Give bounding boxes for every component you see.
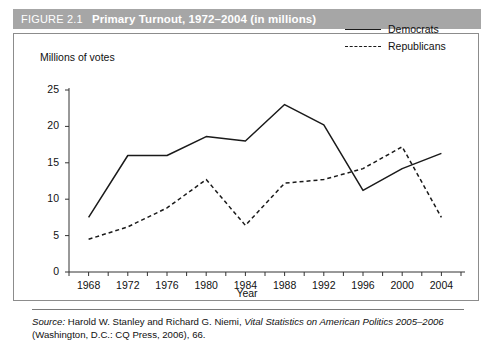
axis-spine [69, 88, 465, 272]
y-tick-label: 15 [35, 156, 59, 168]
chart-svg [0, 0, 494, 346]
x-tick-label: 1996 [343, 279, 383, 291]
y-tick-label: 5 [35, 229, 59, 241]
chart-plot-area: 0510152025 19681972197619801984198819921… [0, 0, 494, 346]
source-italic-title: Vital Statistics on American Politics 20… [244, 316, 443, 327]
x-tick-label: 1968 [69, 279, 109, 291]
source-label: Source: [32, 316, 65, 327]
x-tick-label: 1980 [186, 279, 226, 291]
x-tick-label: 1972 [108, 279, 148, 291]
source-text-part2: (Washington, D.C.: CQ Press, 2006), 66. [32, 329, 205, 340]
chart-series [89, 105, 442, 240]
source-note: Source: Harold W. Stanley and Richard G.… [32, 315, 468, 341]
x-tick-label: 1984 [225, 279, 265, 291]
x-tick-label: 1988 [265, 279, 305, 291]
chart-axes [65, 88, 465, 276]
y-tick-label: 20 [35, 119, 59, 131]
figure-page: FIGURE 2.1 Primary Turnout, 1972–2004 (i… [0, 0, 494, 346]
x-tick-label: 2004 [421, 279, 461, 291]
y-tick-label: 25 [35, 83, 59, 95]
series-line-republicans [89, 147, 442, 239]
y-tick-label: 0 [35, 265, 59, 277]
source-text-part1: Harold W. Stanley and Richard G. Niemi, [65, 316, 244, 327]
series-line-democrats [89, 105, 442, 218]
source-divider [32, 309, 464, 310]
y-tick-label: 10 [35, 192, 59, 204]
x-tick-label: 1992 [304, 279, 344, 291]
x-tick-label: 2000 [382, 279, 422, 291]
x-tick-label: 1976 [147, 279, 187, 291]
